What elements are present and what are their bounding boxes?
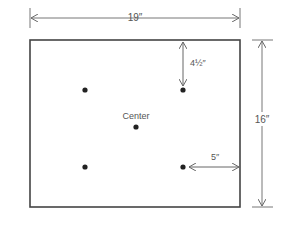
point-top-right xyxy=(180,87,185,92)
top-offset-label: 4½″ xyxy=(190,58,207,68)
side-offset-dimension: 5″ xyxy=(189,152,239,167)
top-offset-dimension: 4½″ xyxy=(183,42,207,86)
height-dimension: 16″ xyxy=(252,40,273,207)
board-outline xyxy=(30,40,240,207)
point-bottom-left xyxy=(82,164,87,169)
center-label: Center xyxy=(122,111,149,121)
width-label: 19″ xyxy=(128,12,143,23)
side-offset-label: 5″ xyxy=(211,152,220,162)
layout-diagram: 19″ 16″ 4½″ 5″ Center xyxy=(0,0,282,225)
width-dimension: 19″ xyxy=(30,8,240,28)
point-bottom-right xyxy=(180,164,185,169)
point-center xyxy=(133,124,138,129)
height-label: 16″ xyxy=(255,114,270,125)
point-top-left xyxy=(82,87,87,92)
